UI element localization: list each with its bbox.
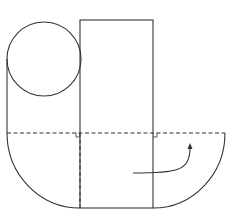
geometry-net-diagram (0, 0, 235, 221)
left-quarter-arc (7, 133, 80, 208)
right-quarter-arc (153, 133, 225, 208)
right-angle-mark-right (153, 133, 157, 137)
right-angle-mark-left (76, 133, 80, 137)
rotation-arrow (133, 148, 190, 173)
arrowhead-icon (188, 143, 193, 149)
circle-face (7, 22, 81, 96)
rectangle-face (80, 20, 153, 208)
